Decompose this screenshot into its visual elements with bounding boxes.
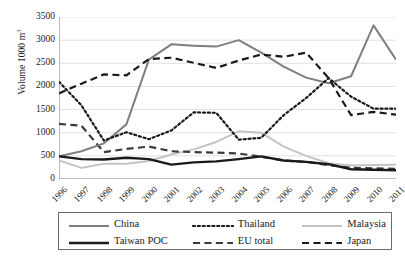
- legend-label: EU total: [238, 235, 273, 246]
- x-tick-label: 2007: [292, 185, 317, 210]
- legend-item-china[interactable]: China: [59, 215, 192, 232]
- x-tick-label: 2003: [202, 185, 227, 210]
- x-tick-label: 2011: [382, 185, 405, 210]
- plot-area: [59, 17, 396, 179]
- y-tick-label: 2000: [17, 81, 55, 91]
- legend-row-1: ChinaThailandMalaysia: [59, 215, 391, 232]
- y-tick-label: 1500: [17, 105, 55, 115]
- legend-label: Malaysia: [347, 218, 386, 229]
- legend-swatch-china: [68, 218, 110, 230]
- legend-item-japan[interactable]: Japan: [301, 232, 391, 249]
- y-tick-label: 3000: [17, 35, 55, 45]
- series-line-japan: [59, 53, 396, 115]
- legend-item-thailand[interactable]: Thailand: [192, 215, 302, 232]
- legend-swatch-japan: [301, 235, 343, 247]
- legend-swatch-eu-total: [192, 235, 234, 247]
- x-tick-label: 1999: [112, 185, 137, 210]
- y-tick-label: 0: [17, 174, 55, 184]
- legend-item-taiwan-poc[interactable]: Taiwan POC: [59, 232, 192, 249]
- x-tick-label: 2008: [314, 185, 339, 210]
- x-tick-label: 1998: [90, 185, 115, 210]
- legend-row-2: Taiwan POCEU totalJapan: [59, 232, 391, 249]
- x-tick-label: 2006: [269, 185, 294, 210]
- x-tick-label: 2009: [337, 185, 362, 210]
- legend-label: Thailand: [238, 218, 275, 229]
- legend-swatch-malaysia: [301, 218, 343, 230]
- x-axis-tick-labels: 1996199719981999200020012002200320042005…: [59, 181, 396, 215]
- x-tick-label: 2000: [134, 185, 159, 210]
- legend-swatch-thailand: [192, 218, 234, 230]
- legend-item-malaysia[interactable]: Malaysia: [301, 215, 391, 232]
- x-tick-label: 2010: [359, 185, 384, 210]
- legend-label: Japan: [347, 235, 371, 246]
- line-chart-figure: Volume 1000 m3 3500300025002000150010005…: [0, 0, 405, 257]
- legend-swatch-taiwan-poc: [68, 235, 110, 247]
- legend-label: Taiwan POC: [114, 235, 168, 246]
- chart-svg: [59, 17, 396, 179]
- y-tick-label: 3500: [17, 12, 55, 22]
- y-tick-label: 2500: [17, 58, 55, 68]
- legend-label: China: [114, 218, 139, 229]
- x-tick-label: 2004: [224, 185, 249, 210]
- x-tick-label: 2005: [247, 185, 272, 210]
- x-tick-label: 1997: [67, 185, 92, 210]
- y-tick-label: 1000: [17, 128, 55, 138]
- series-line-eu-total: [59, 124, 396, 169]
- y-axis-tick-labels: 3500300025002000150010005000: [17, 17, 55, 179]
- chart-legend: ChinaThailandMalaysia Taiwan POCEU total…: [58, 212, 392, 250]
- y-tick-label: 500: [17, 151, 55, 161]
- series-line-malaysia: [59, 131, 396, 168]
- x-tick-label: 2002: [179, 185, 204, 210]
- legend-item-eu-total[interactable]: EU total: [192, 232, 302, 249]
- x-tick-label: 1996: [45, 185, 70, 210]
- x-tick-label: 2001: [157, 185, 182, 210]
